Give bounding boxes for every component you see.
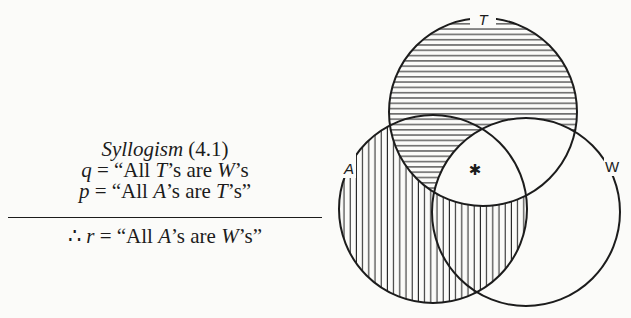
label-A: A (343, 160, 354, 177)
label-W: W (605, 158, 620, 175)
hatch-A-vertical (330, 110, 540, 310)
star-marker-icon: ✱ (469, 161, 482, 179)
venn-diagram: T A W ✱ (0, 0, 631, 318)
